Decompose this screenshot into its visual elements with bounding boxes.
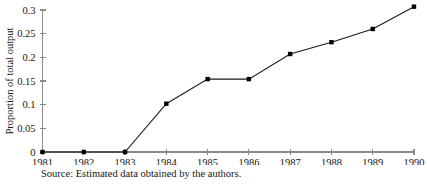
- y-axis-tick-label: 0: [30, 147, 35, 158]
- y-axis-tick-label: 0.1: [22, 99, 35, 110]
- source-note: Source: Estimated data obtained by the a…: [41, 168, 241, 179]
- data-point: [329, 40, 333, 44]
- x-axis-tick-label: 1989: [362, 157, 383, 165]
- data-point: [123, 150, 127, 154]
- x-axis-tick-label: 1982: [73, 157, 94, 165]
- y-axis-tick-label: 0.15: [17, 76, 35, 87]
- x-axis-tick-label: 1988: [321, 157, 342, 165]
- data-point: [288, 52, 292, 56]
- data-point: [164, 102, 168, 106]
- y-axis-tick-labels: 00.050.10.150.20.250.3: [17, 5, 35, 158]
- x-axis-tick-label: 1990: [404, 157, 425, 165]
- y-axis-tick-label: 0.05: [17, 123, 35, 134]
- data-line-series-1: [43, 7, 415, 152]
- x-axis-tick-label: 1983: [115, 157, 136, 165]
- x-axis-tick-label: 1985: [197, 157, 218, 165]
- figure-container: 00.050.10.150.20.250.3 19811982198319841…: [0, 0, 427, 187]
- y-axis-title: Proportion of total output: [4, 27, 15, 134]
- data-point: [40, 150, 44, 154]
- y-axis-tick-label: 0.3: [22, 5, 35, 16]
- x-axis-tick-label: 1987: [280, 157, 301, 165]
- y-axis-tick-label: 0.25: [17, 28, 35, 39]
- x-axis-tick-labels: 1981198219831984198519861987198819891990: [32, 157, 425, 165]
- chart-canvas: 00.050.10.150.20.250.3 19811982198319841…: [0, 0, 427, 165]
- x-axis-tick-label: 1986: [238, 157, 259, 165]
- data-point: [205, 77, 209, 81]
- data-point: [412, 4, 416, 8]
- y-axis-tick-label: 0.2: [22, 52, 35, 63]
- data-point: [82, 150, 86, 154]
- x-axis-tick-label: 1984: [156, 157, 178, 165]
- data-point: [371, 27, 375, 31]
- data-point: [247, 77, 251, 81]
- x-axis-tick-label: 1981: [32, 157, 53, 165]
- line-chart: 00.050.10.150.20.250.3 19811982198319841…: [0, 0, 427, 165]
